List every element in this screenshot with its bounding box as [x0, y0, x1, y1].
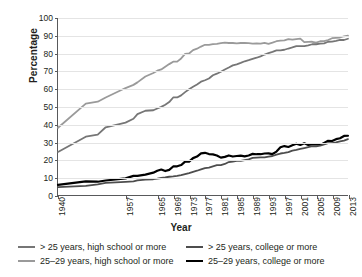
legend-item[interactable]: > 25 years, high school or more [18, 240, 180, 254]
plot-area: 0102030405060708090100194019571965196919… [57, 18, 348, 196]
x-axis-tick-label: 1965 [158, 201, 167, 220]
legend-label: 25–29 years, high school or more [40, 256, 174, 266]
y-axis-tick [55, 107, 58, 108]
gridline [58, 71, 348, 72]
y-axis-tick [55, 125, 58, 126]
gridline [58, 89, 348, 90]
gridline [58, 178, 348, 179]
y-axis-tick-label: 90 [44, 32, 53, 41]
y-axis-tick [55, 143, 58, 144]
y-axis-tick [55, 71, 58, 72]
series-line [58, 139, 348, 187]
y-axis-tick-label: 60 [44, 85, 53, 94]
y-axis-tick [55, 160, 58, 161]
x-axis-tick-label: 2005 [317, 201, 326, 220]
y-axis-tick [55, 54, 58, 55]
legend-color-swatch [186, 246, 203, 248]
chart-legend: > 25 years, high school or more> 25 year… [18, 240, 348, 268]
legend-label: > 25 years, high school or more [40, 242, 166, 252]
legend-color-swatch [18, 260, 35, 262]
gridline [58, 18, 348, 19]
x-axis-tick-label: 2001 [301, 201, 310, 220]
legend-label: 25–29 years, college or more [208, 256, 325, 266]
x-axis-tick-label: 1973 [190, 201, 199, 220]
legend-item[interactable]: > 25 years, college or more [186, 240, 348, 254]
series-line [58, 39, 348, 152]
y-axis-tick [55, 89, 58, 90]
x-axis-tick-label: 1969 [174, 201, 183, 220]
y-axis-tick-label: 80 [44, 49, 53, 58]
y-axis-tick-label: 10 [44, 174, 53, 183]
x-axis-tick-label: 2009 [333, 201, 342, 220]
x-axis-tick-label: 1985 [237, 201, 246, 220]
gridline [58, 143, 348, 144]
line-chart: Percentage 01020304050607080901001940195… [0, 0, 362, 277]
x-axis-tick-label: 1993 [269, 201, 278, 220]
x-axis-tick-label: 1940 [58, 201, 67, 220]
y-axis-tick [55, 178, 58, 179]
x-axis-tick-label: 1981 [221, 201, 230, 220]
y-axis-tick [55, 18, 58, 19]
gridline [58, 54, 348, 55]
y-axis-tick-label: 0 [48, 192, 53, 201]
y-axis-tick-label: 20 [44, 156, 53, 165]
y-axis-tick-label: 40 [44, 121, 53, 130]
legend-item[interactable]: 25–29 years, college or more [186, 254, 348, 268]
x-axis-tick-label: 1977 [205, 201, 214, 220]
y-axis-tick-label: 30 [44, 138, 53, 147]
y-axis-tick-label: 70 [44, 67, 53, 76]
y-axis-tick-label: 50 [44, 103, 53, 112]
legend-color-swatch [186, 260, 203, 262]
legend-item[interactable]: 25–29 years, high school or more [18, 254, 180, 268]
y-axis-tick-label: 100 [39, 14, 53, 23]
gridline [58, 107, 348, 108]
y-axis-tick [55, 36, 58, 37]
gridline [58, 160, 348, 161]
x-axis-tick-label: 1989 [253, 201, 262, 220]
gridline [58, 36, 348, 37]
legend-color-swatch [18, 246, 35, 248]
x-axis-tick-label: 1997 [285, 201, 294, 220]
y-axis-title: Percentage [28, 1, 39, 111]
legend-label: > 25 years, college or more [208, 242, 317, 252]
x-axis-title: Year [0, 222, 362, 233]
x-axis-tick-label: 1957 [126, 201, 135, 220]
gridline [58, 125, 348, 126]
x-axis-tick-label: 2013 [349, 201, 358, 220]
